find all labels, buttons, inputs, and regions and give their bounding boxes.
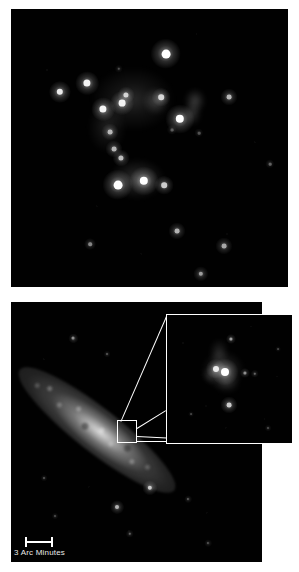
magnified-region-inset[interactable] (166, 314, 293, 444)
astronomy-figure: 3 Arc Minutes (0, 0, 299, 572)
inset-field-noise (167, 315, 292, 443)
top-panel-star-cluster (11, 9, 288, 287)
scale-bar-line (25, 541, 53, 543)
scale-bar-cap-right (51, 537, 53, 547)
region-of-interest-box[interactable] (117, 420, 137, 443)
star-field-noise (11, 9, 288, 287)
scale-bar-group: 3 Arc Minutes (14, 533, 104, 559)
scale-bar-label: 3 Arc Minutes (14, 548, 65, 557)
